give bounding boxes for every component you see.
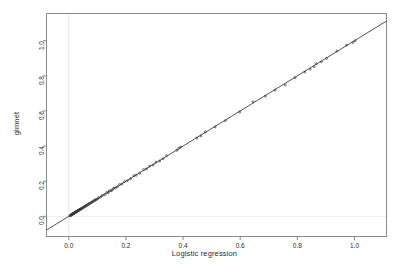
data-point <box>274 89 276 91</box>
data-point <box>178 147 180 149</box>
data-point <box>155 161 157 163</box>
x-axis-tick-label: 0.2 <box>121 242 130 249</box>
data-point <box>200 135 202 137</box>
data-point <box>239 111 241 113</box>
x-axis-tick-label: 0.0 <box>64 242 73 249</box>
x-axis-tick-label: 0.6 <box>236 242 245 249</box>
y-axis-tick-label: 1.0 <box>38 41 45 50</box>
scatter-plot-figure: Logistic regression glmnet 0.00.20.40.60… <box>0 0 409 271</box>
plot-frame <box>47 14 387 237</box>
y-axis-title: glmnet <box>12 94 21 154</box>
x-axis-title: Logistic regression <box>0 249 409 258</box>
data-point <box>313 66 315 68</box>
data-point <box>214 126 216 128</box>
x-axis-tick-label: 0.8 <box>293 242 302 249</box>
data-point <box>336 50 338 52</box>
data-point <box>204 131 206 133</box>
plot-canvas <box>0 0 409 271</box>
data-point <box>143 169 145 171</box>
data-point <box>252 101 254 103</box>
data-point <box>264 95 266 97</box>
data-point <box>320 61 322 63</box>
data-point <box>124 181 126 183</box>
x-axis-tick-label: 0.4 <box>179 242 188 249</box>
data-point <box>304 71 306 73</box>
data-point <box>133 175 135 177</box>
data-point <box>180 146 182 148</box>
data-point <box>166 155 168 157</box>
x-axis-tick-label: 1.0 <box>350 242 359 249</box>
y-axis-tick-label: 0.2 <box>38 181 45 190</box>
data-point <box>346 44 348 46</box>
data-point <box>284 84 286 86</box>
y-axis-tick-label: 0.8 <box>38 76 45 85</box>
data-point <box>152 164 154 166</box>
data-point <box>139 172 141 174</box>
y-axis-tick-label: 0.4 <box>38 146 45 155</box>
data-point <box>159 160 161 162</box>
data-point <box>315 63 317 65</box>
data-point <box>309 68 311 70</box>
data-point <box>224 120 226 122</box>
y-axis-tick-label: 0.0 <box>38 216 45 225</box>
data-point <box>149 165 151 167</box>
data-point <box>119 184 121 186</box>
y-axis-tick-label: 0.6 <box>38 111 45 120</box>
data-point <box>352 41 354 43</box>
data-point <box>326 57 328 59</box>
